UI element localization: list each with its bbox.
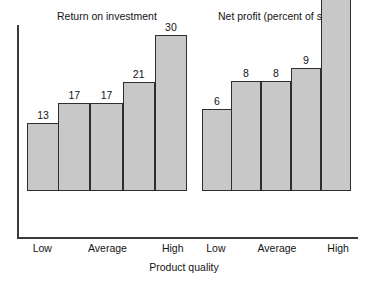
x-tick-label: Low <box>27 241 58 255</box>
bar-group-return-on-investment: 13 17 17 21 30 <box>27 0 188 191</box>
bar-value-label: 17 <box>59 89 89 101</box>
bar-value-label: 9 <box>292 54 320 66</box>
bar[interactable]: 30 <box>155 35 187 191</box>
x-tick-label: High <box>157 241 188 255</box>
bar-group-net-profit: 6 8 8 9 14 <box>202 0 352 191</box>
bar[interactable]: 8 <box>231 81 261 191</box>
x-tick-label <box>296 241 324 255</box>
bar-slot: 13 <box>27 0 59 191</box>
bar-slot: 8 <box>232 0 262 191</box>
bar-value-label: 8 <box>232 67 260 79</box>
bar-value-label: 6 <box>203 95 231 107</box>
bar[interactable]: 13 <box>27 123 59 191</box>
bar[interactable]: 17 <box>90 103 122 191</box>
x-tick-label: Average <box>258 241 297 255</box>
bar-slot: 30 <box>156 0 188 191</box>
chart-container: Return on investment Net profit (percent… <box>0 0 368 285</box>
bar[interactable]: 17 <box>58 103 90 191</box>
x-tick-label <box>58 241 89 255</box>
bar[interactable]: 8 <box>261 81 291 191</box>
bar-value-label: 30 <box>156 21 186 33</box>
bar-value-label: 17 <box>91 89 121 101</box>
bar-slot: 17 <box>91 0 123 191</box>
bar-value-label: 8 <box>262 67 290 79</box>
plot-area: 13 17 17 21 30 <box>0 0 368 239</box>
x-tick-labels-net-profit: Low Average High <box>202 241 352 255</box>
x-tick-label <box>127 241 158 255</box>
bar-slot: 14 <box>322 0 352 191</box>
bar-slot: 21 <box>124 0 156 191</box>
x-tick-label: Average <box>88 241 127 255</box>
bar[interactable]: 14 <box>321 0 351 191</box>
x-axis-title: Product quality <box>0 261 368 273</box>
bar-slot: 9 <box>292 0 322 191</box>
x-tick-label: Low <box>202 241 230 255</box>
x-tick-label <box>230 241 258 255</box>
bar-value-label: 21 <box>124 68 154 80</box>
bar-slot: 8 <box>262 0 292 191</box>
x-tick-labels-return-on-investment: Low Average High <box>27 241 188 255</box>
bar[interactable]: 21 <box>123 82 155 191</box>
bar-slot: 17 <box>59 0 91 191</box>
bar[interactable]: 6 <box>202 109 232 191</box>
bar-slot: 6 <box>202 0 232 191</box>
x-tick-label: High <box>324 241 352 255</box>
bar-value-label: 13 <box>28 109 58 121</box>
bar[interactable]: 9 <box>291 68 321 191</box>
